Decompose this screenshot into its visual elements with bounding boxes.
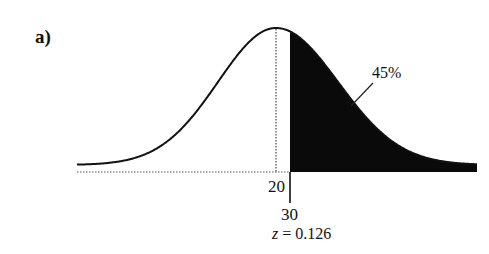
shaded-area-percent-label: 45% <box>372 64 401 81</box>
z-score-label: z = 0.126 <box>271 225 331 242</box>
z-value: = 0.126 <box>278 225 331 242</box>
panel-label: a) <box>35 26 51 48</box>
normal-curve <box>77 28 477 165</box>
mean-tick-label: 20 <box>268 177 285 196</box>
shaded-tail-region <box>290 31 477 172</box>
percent-leader-line <box>351 83 373 106</box>
cutoff-tick-label: 30 <box>281 205 298 224</box>
normal-distribution-figure: a) 20 30 z = 0.126 45% <box>0 0 489 254</box>
